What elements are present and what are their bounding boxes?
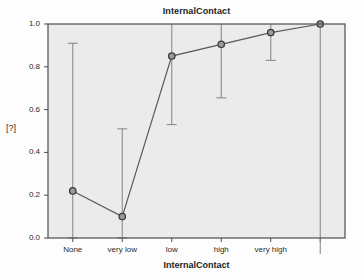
plot-area — [0, 0, 364, 278]
y-tick-label: 0.2 — [14, 191, 40, 199]
plot-background — [48, 24, 345, 238]
chart-container: InternalContact [?] 0.00.20.40.60.81.0 N… — [0, 0, 364, 278]
x-axis-label: InternalContact — [48, 260, 345, 271]
y-tick-label: 0.0 — [14, 234, 40, 242]
y-tick-label: 0.6 — [14, 106, 40, 114]
y-tick-label: 0.4 — [14, 148, 40, 156]
x-tick-label: very high — [241, 245, 301, 254]
y-tick-label: 0.8 — [14, 63, 40, 71]
y-tick-label: 1.0 — [14, 20, 40, 28]
x-axis-ticks — [73, 238, 321, 242]
